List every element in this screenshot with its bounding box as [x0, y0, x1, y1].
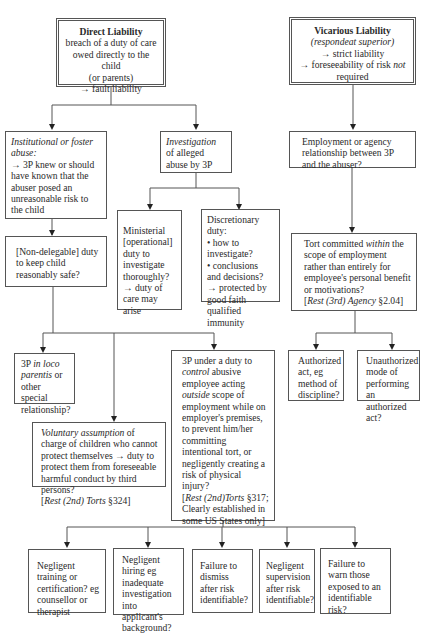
node-investigation: Investigation of alleged abuse by 3P [160, 131, 232, 173]
ministerial-text: Ministerial [operational] duty to invest… [123, 225, 176, 282]
ministerial-arrow: → duty of care may arise [123, 282, 176, 316]
voluntary-heading: Voluntary assumption [41, 427, 124, 438]
employment-text: Employment or agency relationship betwee… [302, 136, 394, 170]
institutional-text: → 3P knew or should have known that the … [11, 159, 101, 216]
node-non-delegable-duty: [Non-delegable] duty to keep child reaso… [5, 236, 107, 287]
node-negligent-training: Negligent training or certification? eg … [28, 549, 106, 613]
control-pre: 3P under a duty to [182, 355, 252, 366]
non-delegable-text: [Non-delegable] duty to keep child reaso… [16, 246, 98, 280]
dismiss-text: Failure to dismiss after risk identifiab… [200, 560, 248, 605]
loco-pre: 3P [21, 358, 33, 369]
vicarious-line-2-emphasis: not [393, 59, 405, 70]
node-employment-relationship: Employment or agency relationship betwee… [289, 131, 416, 168]
node-negligent-supervision: Negligent supervision after risk identif… [259, 549, 315, 613]
node-tort-within-scope: Tort committed within the scope of emplo… [291, 233, 417, 311]
control-emphasis-2: outside [182, 389, 210, 400]
vicarious-line-2-text: → foreseeability of risk [299, 59, 393, 70]
node-authorized-act: Authorized act, eg method of discipline? [288, 350, 344, 401]
direct-line-3: (or parents) [65, 72, 157, 83]
training-text: Negligent training or certification? eg … [37, 560, 99, 617]
node-voluntary-assumption: Voluntary assumption of charge of childr… [32, 422, 166, 487]
direct-line-2: owed directly to the child [65, 49, 157, 72]
vicarious-line-1: → strict liability [298, 48, 407, 59]
discretionary-bullet-2: • conclusions and decisions? [207, 260, 274, 283]
direct-liability-title: Direct Liability [65, 26, 157, 37]
direct-line-1: breach of a duty of care [65, 37, 157, 48]
vicarious-line-2: → foreseeability of risk not [298, 59, 407, 70]
vicarious-subtitle: (respondeat superior) [298, 36, 407, 47]
node-unauthorized-mode: Unauthorized mode of performing an autho… [357, 350, 420, 401]
direct-line-4: → fault liability [65, 83, 157, 94]
node-discretionary-duty: Discretionary duty: • how to investigate… [201, 209, 280, 302]
hiring-text: Negligent hiring eg inadequate investiga… [122, 554, 172, 633]
tort-within-citation: [Rest (3rd) Agency §2.04] [304, 295, 411, 306]
institutional-heading: Institutional or foster abuse: [11, 136, 93, 158]
investigation-text: of alleged abuse by 3P [166, 147, 212, 169]
investigation-heading: Investigation [166, 136, 216, 147]
citation-source: Rest (2nd)Torts [185, 492, 244, 503]
node-institutional-abuse: Institutional or foster abuse: → 3P knew… [5, 131, 107, 219]
node-in-loco-parentis: 3P in loco parentis or other special rel… [14, 353, 75, 404]
node-direct-liability: Direct Liability breach of a duty of car… [56, 18, 166, 87]
node-ministerial-duty: Ministerial [operational] duty to invest… [117, 210, 182, 310]
voluntary-citation: [Rest (2nd) Torts §324] [41, 495, 160, 506]
authorized-text: Authorized act, eg method of discipline? [298, 355, 341, 400]
citation-source: Rest (3rd) Agency [307, 295, 376, 306]
vicarious-title: Vicarious Liability [298, 25, 407, 36]
control-emphasis-1: control [182, 366, 209, 377]
discretionary-bullet-1: • how to investigate? [207, 237, 274, 260]
node-failure-to-dismiss: Failure to dismiss after risk identifiab… [192, 549, 253, 613]
warn-text: Failure to warn those exposed to an iden… [328, 558, 381, 615]
supervision-text: Negligent supervision after risk identif… [266, 560, 314, 605]
node-negligent-hiring: Negligent hiring eg inadequate investiga… [113, 548, 184, 615]
tort-within-emphasis: within [366, 238, 390, 249]
citation-source: Rest (2nd) Torts [44, 495, 105, 506]
discretionary-arrow: → protected by good faith qualified immu… [207, 282, 274, 328]
tort-within-pre: Tort committed [304, 238, 366, 249]
node-vicarious-liability: Vicarious Liability (respondeat superior… [289, 17, 416, 85]
citation-section: §2.04] [376, 295, 403, 306]
node-duty-to-control: 3P under a duty to control abusive emplo… [171, 350, 275, 521]
control-post: scope of employment while on employer's … [182, 389, 266, 491]
vicarious-line-3: required [298, 71, 407, 82]
citation-section: §324] [106, 495, 131, 506]
discretionary-title: Discretionary duty: [207, 214, 274, 237]
control-citation: [Rest (2nd)Torts §317; Clearly establish… [182, 492, 269, 526]
node-failure-to-warn: Failure to warn those exposed to an iden… [320, 548, 391, 614]
unauthorized-text: Unauthorized mode of performing an autho… [366, 355, 418, 423]
